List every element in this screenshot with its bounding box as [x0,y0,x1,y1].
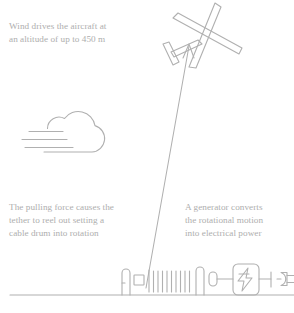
bearing-block [134,275,144,285]
shaft-pulley-icon [209,272,217,286]
caption-wind: Wind drives the aircraft at an altitude … [9,20,159,46]
lightning-bolt-icon [238,268,252,291]
caption-tether: The pulling force causes the tether to r… [9,201,159,241]
generator-box [233,264,259,295]
tether-line [146,44,194,288]
diagram-canvas: Wind drives the aircraft at an altitude … [0,0,294,313]
cable-drum-icon [149,270,190,292]
caption-generator: A generator converts the rotational moti… [185,201,294,241]
glider-aircraft-icon [163,3,242,68]
diagram-artwork [0,0,294,313]
electrical-plug-icon [271,272,294,287]
right-support-post [196,267,204,295]
left-support-post [122,269,130,295]
wind-lines-icon [22,132,73,148]
